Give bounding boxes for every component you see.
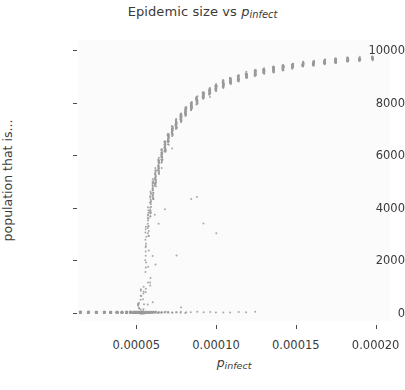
y-axis-tick-label: 2000 [343,253,405,267]
chart-title-variable: p [241,4,249,19]
x-axis-tick-label: 0.00020 [352,338,400,352]
x-axis-tick-mark [216,325,217,329]
scatter-points-canvas [78,40,390,321]
x-axis-tick-mark [136,325,137,329]
y-axis-tick-label: 0 [343,306,405,320]
y-axis-tick-label: 6000 [343,148,405,162]
x-axis-label-subscript: infect [225,360,252,371]
y-axis-tick-mark [73,155,77,156]
x-axis-tick-mark [376,325,377,329]
y-axis-tick-mark [73,103,77,104]
x-axis-label-variable: p [217,355,225,370]
chart-title-subscript: infect [250,9,278,20]
y-axis-tick-label: 4000 [343,201,405,215]
x-axis-label: pinfect [78,355,390,371]
y-axis-label: population that is... [0,40,18,321]
x-axis-tick-mark [296,325,297,329]
y-axis-tick-mark [73,50,77,51]
plot-area [78,40,390,321]
x-axis-tick-label: 0.00005 [112,338,160,352]
y-axis-tick-mark [73,208,77,209]
chart-title: Epidemic size vs pinfect [0,4,405,20]
y-axis-tick-label: 8000 [343,96,405,110]
chart-title-prefix: Epidemic size vs [128,4,242,19]
x-axis-tick-label: 0.00015 [272,338,320,352]
epidemic-size-scatter-figure: Epidemic size vs pinfect 020004000600080… [0,0,405,390]
y-axis-tick-label: 10000 [343,43,405,57]
y-axis-tick-mark [73,260,77,261]
y-axis-tick-mark [73,313,77,314]
x-axis-tick-label: 0.00010 [192,338,240,352]
